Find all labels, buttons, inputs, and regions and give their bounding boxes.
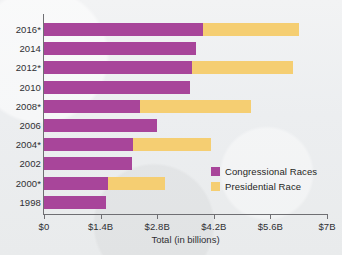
bar-segment-congressional-races — [44, 81, 190, 94]
bar-segment-congressional-races — [44, 119, 157, 132]
y-axis-tick-label: 1998 — [3, 197, 41, 208]
x-axis-tick-mark — [327, 215, 328, 219]
x-axis-tick-mark — [214, 215, 215, 219]
legend-item-congressional-races: Congressional Races — [211, 166, 317, 177]
bar-segment-presidential-race — [108, 177, 165, 190]
bar-segment-presidential-race — [133, 138, 211, 151]
bar-segment-congressional-races — [44, 196, 106, 209]
y-axis-tick-label: 2010 — [3, 82, 41, 93]
bar-segment-presidential-race — [203, 23, 299, 36]
y-axis-tick-label: 2002 — [3, 158, 41, 169]
x-axis-tick-label: $5.6B — [247, 221, 293, 232]
bar-segment-presidential-race — [192, 61, 293, 74]
x-axis-tick-label: $1.4B — [78, 221, 124, 232]
x-axis-tick-label: $4.2B — [191, 221, 237, 232]
legend-item-presidential-race: Presidential Race — [211, 181, 301, 192]
chart-legend: Congressional Races Presidential Race — [211, 166, 336, 196]
x-axis-tick-label: $0 — [21, 221, 67, 232]
bar-segment-congressional-races — [44, 23, 203, 36]
legend-label-presidential-race: Presidential Race — [225, 181, 301, 192]
plot-area: 2016*20142012*20102008*20062004*20022000… — [0, 0, 342, 255]
y-axis-tick-label: 2014 — [3, 43, 41, 54]
campaign-spending-bar-chart: 2016*20142012*20102008*20062004*20022000… — [0, 0, 342, 255]
bar-segment-congressional-races — [44, 100, 140, 113]
y-axis-tick-label: 2000* — [3, 178, 41, 189]
legend-label-congressional-races: Congressional Races — [225, 166, 317, 177]
y-axis-tick-label: 2012* — [3, 62, 41, 73]
bar-segment-congressional-races — [44, 42, 196, 55]
bar-segment-presidential-race — [140, 100, 251, 113]
y-axis-tick-label: 2016* — [3, 24, 41, 35]
x-axis-tick-mark — [270, 215, 271, 219]
bar-segment-congressional-races — [44, 61, 192, 74]
bar-segment-congressional-races — [44, 157, 132, 170]
x-axis-title: Total (in billions) — [43, 234, 328, 245]
y-axis-tick-label: 2008* — [3, 101, 41, 112]
bar-segment-congressional-races — [44, 177, 108, 190]
x-axis-tick-mark — [101, 215, 102, 219]
x-axis-line — [43, 214, 328, 215]
y-axis-tick-label: 2006 — [3, 120, 41, 131]
x-axis-tick-mark — [157, 215, 158, 219]
x-axis-tick-label: $7B — [304, 221, 342, 232]
x-axis-tick-mark — [44, 215, 45, 219]
bar-segment-congressional-races — [44, 138, 133, 151]
y-axis-tick-label: 2004* — [3, 139, 41, 150]
x-axis-tick-label: $2.8B — [134, 221, 180, 232]
legend-swatch-presidential-race — [211, 182, 220, 191]
legend-swatch-congressional-races — [211, 167, 220, 176]
